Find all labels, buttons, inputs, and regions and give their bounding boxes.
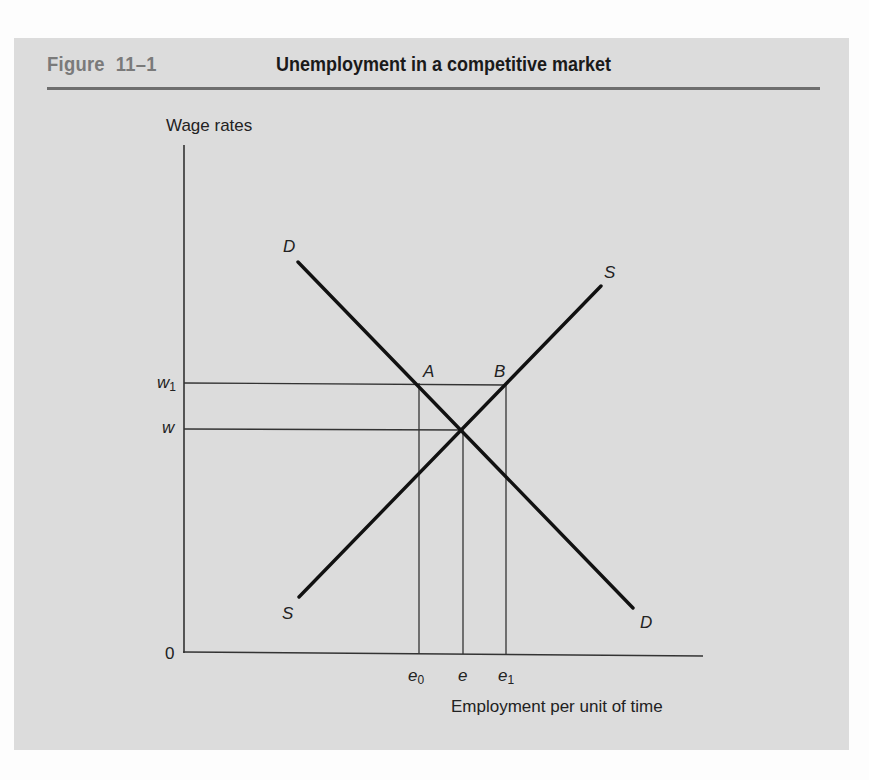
w-tick-label: w [162,418,176,437]
origin-label: 0 [165,644,174,663]
e0-main: e [408,666,417,685]
demand-label-top: D [283,237,295,256]
e0-subscript: 0 [417,673,424,687]
demand-label-bottom: D [640,613,652,632]
w1-tick-label: w1 [157,373,176,394]
e0-tick-label: e0 [408,666,424,687]
e1-tick-label: e1 [498,666,514,687]
e-tick-label: e [458,666,467,685]
point-b-label: B [494,362,505,381]
w1-subscript: 1 [169,380,176,394]
chart-plot: Wage rates 0 D D S S A B w1 w e0 e e1 Em… [0,0,869,780]
w-guide-line [184,429,463,430]
y-axis-label: Wage rates [166,116,252,135]
demand-curve [298,262,633,608]
supply-curve [299,286,601,597]
w1-guide-line [184,383,506,385]
point-a-label: A [422,362,434,381]
e1-main: e [498,666,507,685]
e1-subscript: 1 [507,673,514,687]
x-axis [183,652,703,656]
supply-label-bottom: S [282,604,294,623]
supply-label-top: S [604,263,616,282]
x-axis-label: Employment per unit of time [451,697,663,716]
